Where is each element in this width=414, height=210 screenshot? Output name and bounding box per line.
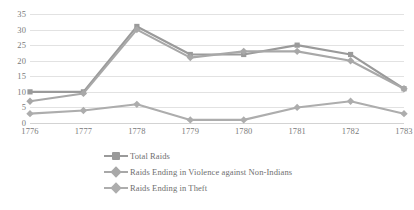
series-line [30, 26, 404, 91]
x-axis-tick-label: 1777 [75, 126, 92, 136]
data-point-marker [27, 89, 32, 94]
y-axis-tick-label: 30 [2, 26, 26, 35]
legend-item-label: Raids Ending in Theft [130, 183, 207, 193]
y-axis-tick-label: 15 [2, 72, 26, 81]
legend-marker-icon [104, 182, 128, 194]
data-point-marker [293, 104, 300, 111]
plot-area [30, 14, 404, 123]
legend-marker-icon [104, 150, 128, 162]
series-diamond [26, 98, 407, 124]
x-axis-tick-label: 1781 [288, 126, 305, 136]
y-axis-tick-label: 10 [2, 88, 26, 97]
y-axis-tick-label: 35 [2, 10, 26, 19]
legend-item-label: Total Raids [130, 151, 170, 161]
x-axis: 17761777177817791780178117821783 [30, 126, 404, 140]
legend-item: Raids Ending in Theft [104, 180, 404, 196]
legend-marker-icon [104, 166, 128, 178]
legend-item-label: Raids Ending in Violence against Non-Ind… [130, 167, 292, 177]
x-axis-tick-label: 1782 [342, 126, 359, 136]
y-axis-tick-label: 5 [2, 103, 26, 112]
x-axis-tick-label: 1776 [21, 126, 38, 136]
y-axis-tick-label: 25 [2, 41, 26, 50]
data-point-marker [26, 98, 33, 105]
series-layer [30, 14, 404, 123]
x-axis-tick-label: 1780 [235, 126, 252, 136]
x-axis-tick-label: 1778 [128, 126, 145, 136]
y-axis: 05101520253035 [0, 14, 26, 123]
x-axis-tick-label: 1783 [395, 126, 412, 136]
line-chart: 05101520253035 1776177717781779178017811… [0, 0, 414, 210]
data-point-marker [187, 116, 194, 123]
data-point-marker [400, 110, 407, 117]
chart-legend: Total RaidsRaids Ending in Violence agai… [104, 148, 404, 196]
series-diamond [26, 26, 407, 105]
series-line [30, 30, 404, 102]
data-point-marker [80, 107, 87, 114]
legend-item: Raids Ending in Violence against Non-Ind… [104, 164, 404, 180]
data-point-marker [293, 48, 300, 55]
data-point-marker [133, 101, 140, 108]
data-point-marker [295, 43, 300, 48]
gridline [30, 123, 404, 124]
x-axis-tick-label: 1779 [182, 126, 199, 136]
data-point-marker [26, 110, 33, 117]
data-point-marker [240, 116, 247, 123]
data-point-marker [348, 52, 353, 57]
data-point-marker [347, 57, 354, 64]
data-point-marker [347, 98, 354, 105]
legend-item: Total Raids [104, 148, 404, 164]
y-axis-tick-label: 20 [2, 57, 26, 66]
